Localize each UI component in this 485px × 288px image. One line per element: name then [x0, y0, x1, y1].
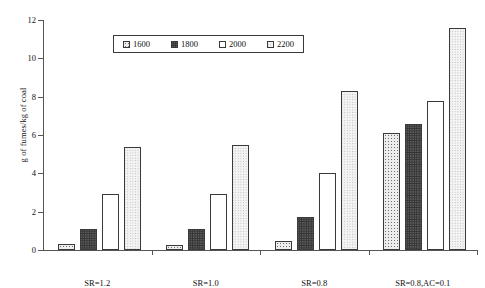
plot-area: 024681012 SR=1.2SR=1.0SR=0.8SR=0.8,AC=0.… [43, 20, 477, 250]
y-tick-label: 6 [32, 130, 36, 140]
bar-2200 [341, 91, 358, 250]
y-tick-label: 2 [32, 207, 36, 217]
x-axis-label: SR=0.8,AC=0.1 [395, 278, 450, 288]
bar-2200 [124, 147, 141, 250]
bar-group [152, 20, 261, 250]
chart-legend: 1600 1800 2000 2200 [113, 35, 304, 53]
x-tick [369, 250, 370, 255]
legend-item: 1800 [171, 39, 198, 49]
bar-2000 [102, 194, 119, 250]
bar-1800 [405, 124, 422, 250]
x-axis-label: SR=1.0 [193, 278, 219, 288]
bar-2200 [232, 145, 249, 250]
bar-2000 [210, 194, 227, 250]
legend-label-2200: 2200 [277, 39, 294, 49]
legend-item: 2000 [219, 39, 246, 49]
bar-group [43, 20, 152, 250]
y-axis-title: g of fumes/kg of coal [18, 55, 28, 195]
legend-swatch-1600 [123, 41, 130, 48]
bar-2200 [449, 28, 466, 250]
y-tick-label: 8 [32, 92, 36, 102]
bar-1800 [188, 229, 205, 250]
legend-label-1600: 1600 [133, 39, 150, 49]
legend-label-1800: 1800 [181, 39, 198, 49]
bar-1800 [297, 217, 314, 250]
x-tick [260, 250, 261, 255]
legend-swatch-2200 [267, 41, 274, 48]
bar-1600 [58, 244, 75, 250]
legend-item: 2200 [267, 39, 294, 49]
y-tick [38, 250, 43, 251]
x-tick [152, 250, 153, 255]
y-tick-label: 10 [28, 53, 37, 63]
bar-1600 [166, 245, 183, 250]
bar-1600 [383, 133, 400, 250]
bar-group [260, 20, 369, 250]
y-tick-label: 12 [28, 15, 37, 25]
x-axis-label: SR=0.8 [301, 278, 327, 288]
bar-group [369, 20, 478, 250]
y-tick-label: 4 [32, 168, 36, 178]
x-tick [477, 250, 478, 255]
bar-1600 [275, 241, 292, 250]
legend-swatch-1800 [171, 41, 178, 48]
y-tick-label: 0 [32, 245, 36, 255]
bar-2000 [427, 101, 444, 251]
x-axis-label: SR=1.2 [84, 278, 110, 288]
bar-1800 [80, 229, 97, 250]
legend-label-2000: 2000 [229, 39, 246, 49]
legend-swatch-2000 [219, 41, 226, 48]
bar-2000 [319, 173, 336, 250]
legend-item: 1600 [123, 39, 150, 49]
